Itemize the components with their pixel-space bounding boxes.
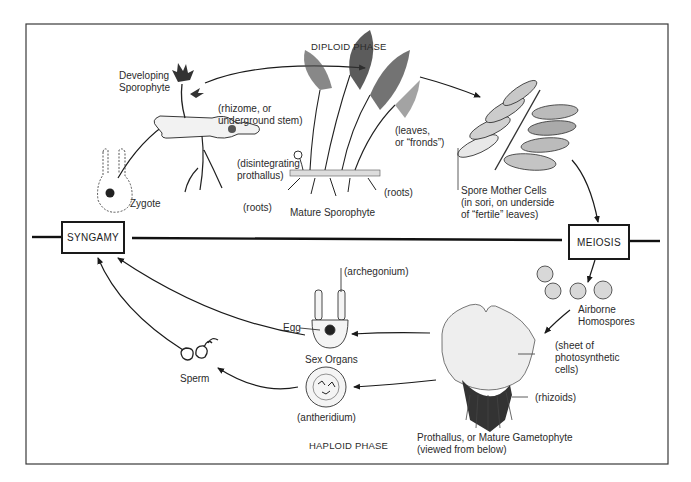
arrow-antheridium-to-sperm — [218, 368, 298, 389]
arrow-spores-to-prothallus — [545, 310, 570, 333]
arrow-mature-to-fertile-leaf — [420, 77, 480, 97]
zygote-label: Zygote — [130, 198, 161, 209]
disintegrating-prothallus-label-line1: (disintegrating — [237, 158, 300, 169]
sheet-of-cells-label-line1: (sheet of — [555, 340, 594, 351]
meiosis-box: MEIOSIS — [568, 224, 630, 260]
zygote-nucleus — [106, 189, 115, 198]
spore-mother-cells-label-line2: (in sori, on underside — [461, 197, 554, 208]
fern-life-cycle-diagram: DIPLOID PHASE HAPLOID PHASE SYNGAMY MEIO… — [0, 0, 691, 482]
sperm-label: Sperm — [180, 373, 209, 384]
arrow-prothallus-to-antheridium — [354, 380, 436, 387]
arrow-prothallus-to-archegonium — [352, 333, 430, 334]
mature-sporophyte-label: Mature Sporophyte — [290, 207, 375, 218]
sheet-of-cells-label-line3: cells) — [555, 364, 578, 375]
sheet-of-cells-label-line2: photosynthetic — [555, 352, 620, 363]
diploid-phase-label: DIPLOID PHASE — [311, 41, 386, 52]
antheridium-label: (antheridium) — [297, 412, 356, 423]
arrow-leaf-to-meiosis — [572, 160, 598, 222]
airborne-homospores-label-line1: Airborne — [578, 304, 616, 315]
prothallus-illustration — [442, 304, 535, 432]
mature-sporophyte-illustration — [288, 30, 420, 196]
rhizome-label-line2: underground stem) — [218, 115, 303, 126]
airborne-homospores-illustration — [537, 266, 612, 299]
prothallus-label-line2: (viewed from below) — [417, 444, 506, 455]
rhizome-label-line1: (rhizome, or — [218, 103, 271, 114]
arrow-meiosis-to-spores — [588, 260, 595, 282]
spore-mother-cells-label-line1: Spore Mother Cells — [461, 185, 547, 196]
spore-mother-cells-label-line3: of “fertile” leaves) — [461, 209, 538, 220]
arrow-egg-to-syngamy — [118, 258, 305, 335]
airborne-homospores-label-line2: Homospores — [578, 316, 635, 327]
roots-mature-label: (roots) — [384, 187, 413, 198]
leaves-label-line1: (leaves, — [395, 125, 430, 136]
haploid-phase-label: HAPLOID PHASE — [309, 440, 388, 451]
syngamy-box: SYNGAMY — [61, 221, 125, 254]
sex-organs-label: Sex Organs — [305, 354, 358, 365]
antheridium-illustration — [306, 367, 346, 407]
developing-sporophyte-label-line1: Developing — [119, 70, 169, 81]
disintegrating-prothallus-label-line2: prothallus) — [237, 170, 284, 181]
prothallus-label-line1: Prothallus, or Mature Gametophyte — [417, 432, 573, 443]
leaves-label-line2: or “fronds”) — [395, 137, 444, 148]
zygote-illustration — [98, 149, 133, 212]
fertile-leaf-illustration — [455, 77, 578, 190]
rhizoids-label: (rhizoids) — [535, 392, 576, 403]
archegonium-illustration — [300, 268, 348, 348]
developing-sporophyte-label-line2: Sporophyte — [119, 82, 170, 93]
archegonium-label: (archegonium) — [344, 266, 408, 277]
roots-young-label: (roots) — [243, 202, 272, 213]
egg-label: Egg — [283, 322, 301, 333]
sperm-illustration — [181, 339, 218, 360]
arrow-developing-to-mature — [205, 66, 365, 83]
